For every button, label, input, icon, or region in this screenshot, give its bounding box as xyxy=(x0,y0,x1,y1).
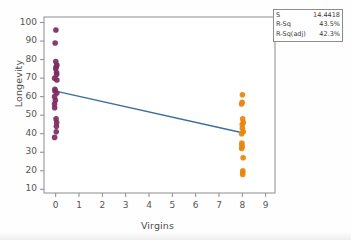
x-tick-label: 0 xyxy=(47,201,65,210)
statistics-key: S xyxy=(276,11,280,20)
statistics-value: 14.4418 xyxy=(313,11,340,20)
x-tick-label: 7 xyxy=(210,201,228,210)
statistics-key: R-Sq(adj) xyxy=(276,30,306,39)
scatter-plot-figure: 102030405060708090100 0123456789 Longevi… xyxy=(0,0,351,240)
statistics-key: R-Sq xyxy=(276,20,291,29)
x-tick-label: 9 xyxy=(257,201,275,210)
statistics-row: R-Sq(adj)42.3% xyxy=(276,30,340,39)
x-tick-label: 8 xyxy=(233,201,251,210)
statistics-value: 43.5% xyxy=(319,20,340,29)
y-axis-title: Longevity xyxy=(13,44,24,124)
x-tick-label: 1 xyxy=(70,201,88,210)
statistics-value: 42.3% xyxy=(319,30,340,39)
statistics-box: S14.4418R-Sq43.5%R-Sq(adj)42.3% xyxy=(273,9,343,42)
x-tick-label: 6 xyxy=(187,201,205,210)
x-tick-label: 2 xyxy=(93,201,111,210)
x-axis-title: Virgins xyxy=(40,220,275,231)
statistics-row: S14.4418 xyxy=(276,11,340,20)
x-tick-label: 3 xyxy=(117,201,135,210)
x-tick-label: 4 xyxy=(140,201,158,210)
x-tick-label: 5 xyxy=(163,201,181,210)
statistics-row: R-Sq43.5% xyxy=(276,20,340,29)
